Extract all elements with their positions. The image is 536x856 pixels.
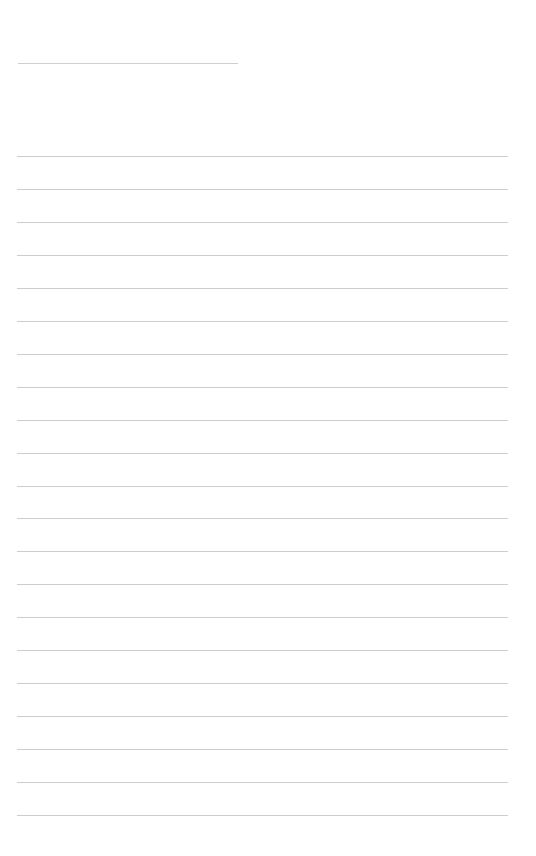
ruled-line — [17, 749, 508, 750]
ruled-line — [17, 420, 508, 421]
ruled-line — [17, 650, 508, 651]
lined-paper-page — [0, 0, 536, 856]
ruled-line — [17, 815, 508, 816]
ruled-line — [17, 551, 508, 552]
ruled-line — [17, 288, 508, 289]
ruled-line — [17, 255, 508, 256]
ruled-line — [17, 321, 508, 322]
ruled-line — [17, 617, 508, 618]
ruled-line — [17, 716, 508, 717]
ruled-line — [17, 486, 508, 487]
ruled-line — [17, 683, 508, 684]
ruled-line — [17, 782, 508, 783]
ruled-line — [17, 387, 508, 388]
ruled-line — [17, 453, 508, 454]
ruled-line — [17, 354, 508, 355]
title-write-line — [18, 63, 238, 64]
ruled-line — [17, 156, 508, 157]
ruled-line — [17, 584, 508, 585]
ruled-line — [17, 518, 508, 519]
ruled-line — [17, 222, 508, 223]
ruled-line — [17, 189, 508, 190]
